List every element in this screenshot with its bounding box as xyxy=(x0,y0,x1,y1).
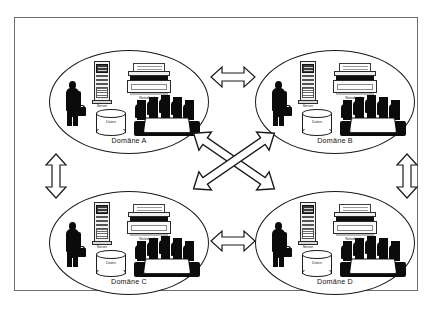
domain-ellipse-d[interactable]: Server Netzdrucker Daten Domän xyxy=(255,191,415,295)
database-label: Daten xyxy=(302,261,332,265)
connection-arrow-c-d xyxy=(211,230,255,252)
server-icon: Server xyxy=(298,202,318,250)
server-icon: Server xyxy=(298,61,318,109)
businessman-icon xyxy=(268,81,290,127)
database-cylinder-icon: Daten xyxy=(96,250,126,280)
database-label: Daten xyxy=(302,120,332,124)
database-cylinder-icon: Daten xyxy=(302,250,332,280)
database-cylinder-icon: Daten xyxy=(96,109,126,139)
diagram-canvas: Server Netzdrucker Daten Domän xyxy=(0,0,433,311)
database-label: Daten xyxy=(96,261,126,265)
database-label: Daten xyxy=(96,120,126,124)
businessman-icon xyxy=(268,222,290,268)
businessman-icon xyxy=(62,81,84,127)
database-cylinder-icon: Daten xyxy=(302,109,332,139)
server-icon: Server xyxy=(92,202,112,250)
connection-arrow-a-c xyxy=(45,154,67,198)
domain-ellipse-c[interactable]: Server Netzdrucker Daten Domän xyxy=(49,191,209,295)
meeting-group-icon xyxy=(340,236,406,278)
domain-label-c: Domäne C xyxy=(50,277,208,286)
server-label: Server xyxy=(86,245,118,249)
meeting-group-icon xyxy=(340,95,406,137)
connection-arrow-b-c xyxy=(183,126,285,196)
server-icon: Server xyxy=(92,61,112,109)
server-label: Server xyxy=(86,104,118,108)
connection-arrow-b-d xyxy=(396,154,418,198)
domain-label-d: Domäne D xyxy=(256,277,414,286)
server-label: Server xyxy=(292,245,324,249)
businessman-icon xyxy=(62,222,84,268)
diagram-frame: Server Netzdrucker Daten Domän xyxy=(14,17,418,291)
server-label: Server xyxy=(292,104,324,108)
meeting-group-icon xyxy=(134,236,200,278)
connection-arrow-a-b xyxy=(211,66,255,88)
